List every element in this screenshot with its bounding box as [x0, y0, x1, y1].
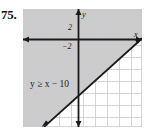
graph-svg — [23, 9, 142, 127]
problem-number-label: 75. — [1, 8, 17, 21]
y-axis-letter-label: y — [82, 10, 86, 19]
inequality-annotation: y ≥ x − 10 — [30, 79, 69, 89]
problem-figure: 75. — [0, 0, 147, 131]
x-axis-letter-label: x — [134, 30, 138, 39]
y-axis-tick-label-negative-2: −2 — [62, 43, 71, 51]
coordinate-graph — [23, 9, 142, 127]
y-axis-tick-label-2: 2 — [68, 24, 72, 32]
